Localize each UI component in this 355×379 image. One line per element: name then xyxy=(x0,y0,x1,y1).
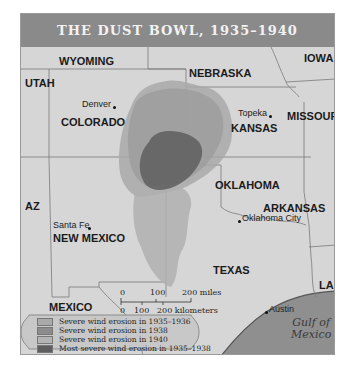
dust-bowl-map-figure: THE DUST BOWL, 1935–1940 xyxy=(20,13,335,355)
legend-item: Most severe wind erosion in 1935–1938 xyxy=(37,344,211,353)
city-denver-dot xyxy=(113,106,116,109)
city-oklahoma-city: Oklahoma City xyxy=(242,213,301,223)
label-arizona: AZ xyxy=(25,200,40,212)
map-legend: Severe wind erosion in 1935–1936 Severe … xyxy=(23,327,198,355)
city-austin: Austin xyxy=(269,304,294,314)
title-bar: THE DUST BOWL, 1935–1940 xyxy=(21,14,334,47)
legend-swatch-most-severe xyxy=(37,345,53,353)
legend-swatch-1935-1936 xyxy=(37,318,53,326)
label-iowa: IOWA xyxy=(304,52,333,64)
label-nebraska: NEBRASKA xyxy=(189,67,251,79)
city-oklahoma-city-dot xyxy=(238,220,241,223)
scale-miles-200: 200 miles xyxy=(182,288,221,297)
scale-miles-0: 0 xyxy=(120,288,125,297)
label-mexico: MEXICO xyxy=(49,301,92,313)
label-texas: TEXAS xyxy=(213,264,250,276)
legend-swatch-1938 xyxy=(37,327,53,335)
label-gulf-of-mexico: Gulf of Mexico xyxy=(291,317,331,341)
city-topeka-dot xyxy=(269,115,272,118)
map-area: WYOMING NEBRASKA IOWA UTAH COLORADO KANS… xyxy=(21,47,334,355)
city-santa-fe: Santa Fe xyxy=(53,220,90,230)
scale-km-100: 100 xyxy=(134,306,149,315)
legend-item: Severe wind erosion in 1940 xyxy=(37,335,168,344)
city-santa-fe-dot xyxy=(88,227,91,230)
label-wyoming: WYOMING xyxy=(59,55,114,67)
label-colorado: COLORADO xyxy=(61,116,125,128)
scale-km-0: 0 xyxy=(120,306,125,315)
city-austin-dot xyxy=(265,311,268,314)
map-title: THE DUST BOWL, 1935–1940 xyxy=(57,23,298,38)
scale-km-200: 200 kilometers xyxy=(157,306,218,315)
city-topeka: Topeka xyxy=(238,108,267,118)
legend-swatch-1940 xyxy=(37,336,53,344)
legend-item: Severe wind erosion in 1938 xyxy=(37,326,168,335)
label-louisiana: LA xyxy=(319,279,334,291)
city-denver: Denver xyxy=(82,99,111,109)
legend-item: Severe wind erosion in 1935–1936 xyxy=(37,317,191,326)
label-utah: UTAH xyxy=(25,77,55,89)
scale-miles-100: 100 xyxy=(150,288,165,297)
label-oklahoma: OKLAHOMA xyxy=(215,179,280,191)
label-new-mexico: NEW MEXICO xyxy=(53,232,125,244)
label-missouri: MISSOURI xyxy=(287,110,335,122)
label-kansas: KANSAS xyxy=(231,122,277,134)
